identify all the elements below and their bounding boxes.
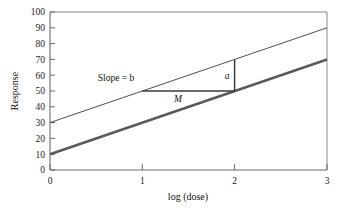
- x-ticklabel-2: 2: [232, 176, 237, 186]
- rise-label: a: [225, 71, 230, 81]
- y-ticklabel-0: 0: [40, 165, 45, 175]
- x-ticklabel-3: 3: [325, 176, 330, 186]
- y-ticklabel-100: 100: [31, 7, 46, 17]
- shift-label: M: [173, 94, 183, 104]
- y-ticklabel-20: 20: [36, 134, 46, 144]
- x-ticklabel-1: 1: [140, 176, 145, 186]
- y-ticklabel-40: 40: [36, 102, 46, 112]
- chart-figure: 0 10 20 30 40 50 60 70 80 90 100 0 1 2 3: [0, 0, 344, 210]
- chart-svg: 0 10 20 30 40 50 60 70 80 90 100 0 1 2 3: [0, 0, 344, 210]
- y-ticklabel-10: 10: [36, 150, 46, 160]
- x-ticklabel-0: 0: [48, 176, 53, 186]
- y-ticklabel-90: 90: [36, 23, 46, 33]
- y-ticklabel-50: 50: [36, 86, 46, 96]
- y-axis-title: Response: [9, 71, 20, 110]
- y-ticklabel-30: 30: [36, 118, 46, 128]
- slope-label: Slope = b: [98, 73, 135, 83]
- y-ticklabel-60: 60: [36, 71, 46, 81]
- x-axis-title: log (dose): [168, 191, 208, 203]
- y-ticklabel-80: 80: [36, 39, 46, 49]
- y-ticklabel-70: 70: [36, 55, 46, 65]
